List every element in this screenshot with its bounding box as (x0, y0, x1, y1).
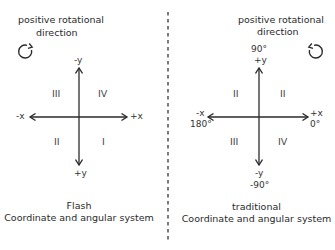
right-axis-bottom-angle: -90° (250, 180, 269, 190)
right-axes (208, 68, 308, 165)
right-quadrant-upper-right: II (280, 88, 286, 99)
left-heading-line2: direction (36, 27, 78, 38)
right-heading-line2: direction (257, 26, 299, 37)
right-quadrant-lower-right: IV (278, 136, 287, 147)
right-caption-line2: Coordinate and angular system (178, 213, 335, 225)
right-axis-right-label: +x (310, 108, 323, 118)
left-caption-line1: Flash (0, 200, 158, 212)
left-quadrant-lower-right: I (102, 136, 105, 147)
left-quadrant-lower-left: II (54, 136, 60, 147)
right-axis-left-label: -x (196, 108, 205, 118)
right-quadrant-lower-left: III (230, 136, 238, 147)
left-axis-bottom-label: +y (74, 168, 87, 178)
left-axis-left-label: -x (16, 111, 25, 121)
left-axis-right-label: +x (130, 111, 143, 121)
right-axis-right-angle: 0° (310, 119, 320, 129)
left-quadrant-upper-right: IV (98, 88, 107, 99)
right-axis-top-label: +y (254, 55, 267, 65)
right-axis-bottom-label: -y (255, 168, 263, 178)
left-heading-line1: positive rotational (18, 14, 104, 25)
left-axis-top-label: -y (74, 55, 82, 65)
left-quadrant-upper-left: III (52, 88, 60, 99)
right-axis-left-angle: 180° (190, 119, 212, 129)
right-quadrant-upper-left: II (233, 88, 239, 99)
right-heading-line1: positive rotational (238, 14, 324, 25)
left-caption-line2: Coordinate and angular system (0, 212, 158, 224)
left-axes (30, 68, 127, 165)
right-caption-line1: traditional (178, 201, 335, 213)
right-axis-top-angle: 90° (251, 44, 267, 54)
counterclockwise-rotation-icon (309, 44, 323, 59)
clockwise-rotation-icon (19, 44, 33, 59)
